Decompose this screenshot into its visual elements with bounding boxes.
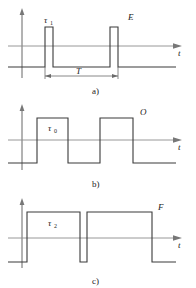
panel-caption-b: b) (92, 179, 100, 189)
waveform-c (8, 212, 176, 262)
x-axis-label-c: t (178, 240, 181, 250)
period-arrow-left-a (45, 74, 51, 78)
x-axis-label-a: t (178, 48, 181, 58)
panel-a: τ 1 E t T a) (0, 0, 196, 98)
y-axis-arrow-c (20, 198, 25, 205)
pulse-width-label-sub-b: 0 (54, 128, 57, 134)
period-arrow-right-a (112, 74, 118, 78)
x-axis-label-b: t (178, 142, 181, 152)
waveform-b (8, 118, 176, 163)
pulse-width-label-sub-c: 2 (54, 223, 57, 229)
pulse-width-label-b: τ (48, 123, 52, 133)
panel-b: τ 0 O t b) (0, 96, 196, 192)
y-axis-arrow-a (20, 8, 25, 15)
panel-caption-c: c) (92, 276, 99, 286)
panel-a-plot: τ 1 E t T a) (0, 0, 196, 98)
y-axis-arrow-b (20, 104, 25, 111)
panel-c: τ 2 F t c) (0, 190, 196, 288)
panel-caption-a: a) (92, 86, 99, 96)
pulse-width-label-c: τ (48, 218, 52, 228)
amplitude-label-b: O (140, 107, 147, 117)
waveform-figure: τ 1 E t T a) τ 0 O t b) (0, 0, 196, 288)
waveform-a (8, 27, 176, 67)
panel-b-plot: τ 0 O t b) (0, 96, 196, 192)
pulse-width-label-sub-a: 1 (50, 20, 53, 26)
amplitude-label-c: F (157, 202, 164, 212)
panel-c-plot: τ 2 F t c) (0, 190, 196, 288)
amplitude-label-a: E (127, 12, 134, 22)
pulse-width-label-a: τ (44, 15, 48, 25)
